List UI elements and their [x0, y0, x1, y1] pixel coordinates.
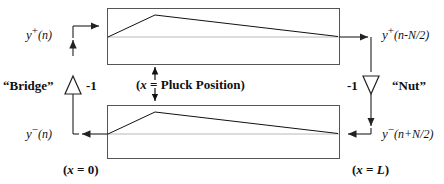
x-zero-label: (x = 0) — [63, 163, 99, 176]
bridge-gain-label: -1 — [86, 79, 97, 92]
pluck-position-label: (x = Pluck Position) — [136, 78, 245, 91]
x-length-L: L — [377, 162, 385, 177]
bridge-inverting-amplifier — [65, 76, 81, 94]
bottom-left-signal-arg: (n) — [38, 127, 52, 141]
lower-delay-line-box — [108, 106, 340, 159]
bottom-right-signal-label: y−(n+N/2) — [382, 127, 433, 140]
top-right-signal-arg: (n-N/2) — [394, 28, 429, 42]
bridge-label: “Bridge” — [3, 79, 54, 92]
top-left-signal-label: y+(n) — [26, 28, 52, 41]
nut-gain-label: -1 — [347, 79, 358, 92]
upper-triangular-wave — [108, 15, 338, 37]
diagram-canvas: y+(n) y+(n-N/2) y−(n) y−(n+N/2) “Bridge”… — [0, 0, 444, 184]
waveguide-diagram — [0, 0, 444, 184]
top-left-signal-arg: (n) — [38, 28, 52, 42]
x-length-rest: = — [363, 162, 377, 177]
nut-label: “Nut” — [392, 79, 426, 92]
x-length-close: ) — [385, 162, 389, 177]
bottom-right-signal-arg: (n+N/2) — [394, 127, 433, 141]
x-length-label: (x = L) — [352, 163, 389, 176]
nut-inverting-amplifier — [363, 76, 379, 94]
bottom-left-signal-label: y−(n) — [26, 127, 52, 140]
lower-triangular-wave — [108, 112, 338, 134]
x-zero-rest: = 0) — [74, 162, 99, 177]
top-right-signal-label: y+(n-N/2) — [382, 28, 429, 41]
pluck-position-rest: = Pluck Position) — [147, 77, 245, 92]
